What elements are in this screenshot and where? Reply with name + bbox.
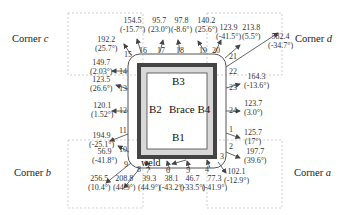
point-number: 14 <box>119 67 127 76</box>
point-2-value: 197.7(39.6°) <box>244 148 267 165</box>
point-number: 24 <box>229 106 237 115</box>
plate-b1-label: B1 <box>172 131 185 143</box>
point-number: 4 <box>205 165 209 174</box>
point-number: 23 <box>229 83 237 92</box>
point-number: 1 <box>229 125 233 134</box>
point-24-value: 123.7(3.0°) <box>244 100 263 117</box>
corner-a-label: Corner a <box>294 167 331 178</box>
point-number: 20 <box>212 46 220 55</box>
point-number: 18 <box>176 46 184 55</box>
point-number: 9 <box>124 160 128 169</box>
point-number: 12 <box>119 106 127 115</box>
point-6-value: 38.1(-43.2°) <box>159 175 184 192</box>
point-10-value: 56.9(-41.8°) <box>92 148 117 165</box>
point-1-value: 125.7(17°) <box>244 129 262 146</box>
point-number: 15 <box>124 50 132 59</box>
point-number: 13 <box>119 84 127 93</box>
point-19-value: 140.2(25.6°) <box>195 17 218 34</box>
point-number: 10 <box>119 145 127 154</box>
point-number: 11 <box>119 126 127 135</box>
point-number: 2 <box>229 142 233 151</box>
point-20-value: 123.9(-41.5°) <box>216 24 241 41</box>
point-22-value: 582.4(-34.7°) <box>268 33 293 50</box>
point-7-value: 39.3(44.9°) <box>138 175 161 192</box>
corner-b-label: Corner b <box>14 167 51 178</box>
corner-d-label: Corner d <box>295 33 332 44</box>
weld-label: weld <box>141 157 160 168</box>
point-number: 19 <box>199 46 207 55</box>
corner-c-label: Corner c <box>12 33 48 44</box>
point-17-value: 95.7(23.0°) <box>148 17 171 34</box>
point-13-value: 123.5(26.6°) <box>90 76 113 93</box>
point-number: 8 <box>137 165 141 174</box>
point-number: 16 <box>139 46 147 55</box>
point-21-value: 213.8(5.5°) <box>242 24 261 41</box>
weld-stress-diagram: Corner c Corner d Corner b Corner a B3 B… <box>0 0 356 215</box>
point-number: 22 <box>229 67 237 76</box>
point-4-value: 77.3(-41.9°) <box>202 175 227 192</box>
point-number: 21 <box>229 52 237 61</box>
point-16-value: 154.5(-15.7°) <box>120 17 145 34</box>
point-3-value: 102.1(-12.9°) <box>224 168 249 185</box>
point-15-value: 192.2(25.7°) <box>95 36 118 53</box>
point-14-value: 149.7(2.03°) <box>90 59 113 76</box>
plate-b3-label: B3 <box>172 75 185 87</box>
point-9-value: 256.5(10.4°) <box>88 175 111 192</box>
brace-b4-label: Brace B4 <box>169 103 210 115</box>
point-number: 17 <box>157 46 165 55</box>
point-8-value: 208.8(44.9°) <box>113 175 136 192</box>
plate-b2-label: B2 <box>149 103 162 115</box>
point-11-value: 194.9(-25.1°) <box>89 132 114 149</box>
point-number: 3 <box>220 152 224 161</box>
point-23-value: 164.3(-13.6°) <box>244 73 269 90</box>
point-18-value: 97.8(-8.6°) <box>171 17 192 34</box>
point-12-value: 120.1(1.52°) <box>91 102 114 119</box>
